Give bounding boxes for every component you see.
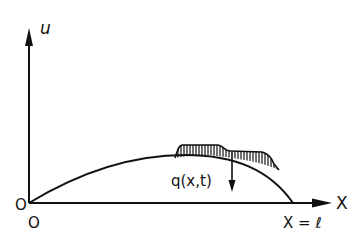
x-axis-label: X	[336, 193, 348, 213]
load-label: q(x,t)	[171, 172, 212, 190]
x-end-label: X = ℓ	[283, 214, 322, 232]
origin-label-bottom: O	[28, 214, 40, 232]
u-axis	[25, 28, 33, 203]
x-axis	[29, 199, 332, 208]
arrow-down-icon	[229, 180, 236, 192]
deflection-curve	[29, 155, 293, 203]
origin-label-left: O	[15, 196, 27, 214]
diagram-canvas: u X O O X = ℓ q(x,t)	[0, 0, 362, 236]
u-axis-arrowhead-icon	[25, 28, 33, 46]
distributed-load	[175, 140, 279, 175]
u-axis-label: u	[40, 18, 51, 38]
x-axis-arrowhead-icon	[312, 199, 332, 208]
